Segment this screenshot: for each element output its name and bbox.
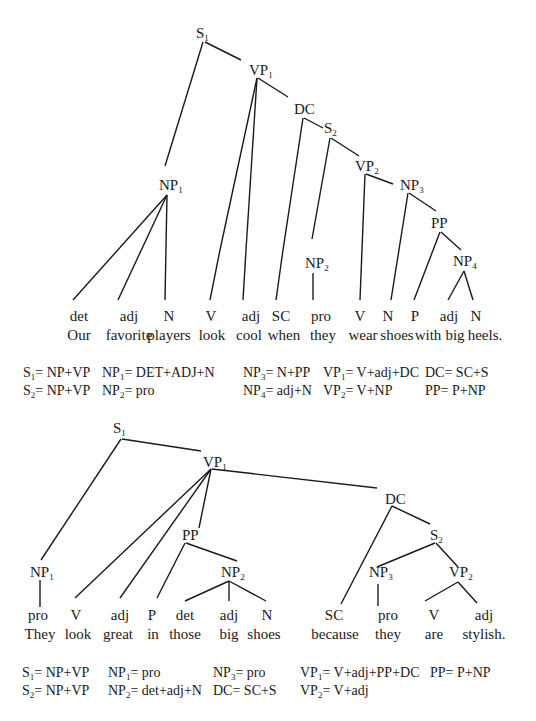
leaf-tag: N	[471, 308, 482, 324]
syntax-tree-figure: S1 VP1 DC S2 VP2 NP3 PP NP1 NP2 NP4 det …	[0, 0, 536, 721]
leaf-tag: SC	[325, 607, 343, 623]
rule: NP2= det+adj+N	[108, 683, 202, 700]
leaf-word: They	[25, 626, 56, 642]
node-dc: DC	[385, 491, 406, 507]
tree-1-branches	[73, 42, 473, 300]
leaf-word: because	[311, 626, 359, 642]
leaf-tag: adj	[242, 308, 260, 324]
node-s2: S2	[430, 527, 443, 545]
leaf-tag: adj	[440, 308, 458, 324]
node-pp: PP	[182, 527, 199, 543]
leaf-tag: pro	[311, 308, 331, 324]
node-np4: NP4	[453, 253, 477, 271]
leaf-tag: det	[176, 607, 195, 623]
tree-2-leaves: pro They V look adj great P in det those…	[25, 607, 506, 642]
node-s2: S2	[324, 120, 337, 138]
leaf-tag: adj	[111, 607, 129, 623]
leaf-tag: pro	[28, 607, 48, 623]
node-np3: NP3	[400, 177, 424, 195]
node-vp2: VP2	[449, 564, 473, 582]
rule: DC= SC+S	[425, 365, 489, 380]
leaf-word: shoes	[380, 327, 413, 343]
rule: VP1= V+adj+PP+DC	[300, 665, 419, 682]
tree-2-branches	[40, 439, 477, 607]
node-np1: NP1	[30, 564, 54, 582]
rule: NP1= pro	[108, 665, 160, 682]
rule: PP= P+NP	[430, 665, 491, 680]
node-pp: PP	[431, 215, 448, 231]
node-np2: NP2	[221, 564, 245, 582]
tree-1-nodes: S1 VP1 DC S2 VP2 NP3 PP NP1 NP2 NP4	[159, 25, 477, 273]
node-vp1: VP1	[203, 454, 227, 472]
leaf-word: Our	[67, 327, 90, 343]
leaf-tag: SC	[272, 308, 290, 324]
node-np2: NP2	[305, 255, 329, 273]
node-s1: S1	[196, 25, 209, 43]
leaf-tag: V	[355, 308, 366, 324]
tree-1: S1 VP1 DC S2 VP2 NP3 PP NP1 NP2 NP4 det …	[23, 25, 502, 400]
rule: VP2= V+adj	[300, 683, 369, 700]
leaf-word: those	[169, 626, 201, 642]
leaf-word: look	[199, 327, 226, 343]
leaf-tag: adj	[120, 308, 138, 324]
node-s1: S1	[113, 420, 126, 438]
leaf-word: wear	[348, 327, 377, 343]
leaf-tag: adj	[220, 607, 238, 623]
rule: NP3= pro	[213, 665, 265, 682]
node-vp1: VP1	[249, 62, 273, 80]
leaf-word: look	[65, 626, 92, 642]
leaf-tag: V	[71, 607, 82, 623]
leaf-tag: adj	[475, 607, 493, 623]
rule: NP1= DET+ADJ+N	[102, 365, 215, 382]
rule: S2= NP+VP	[22, 683, 90, 700]
tree-2: S1 VP1 DC S2 PP NP1 NP2 NP3 VP2 pro They…	[22, 420, 505, 700]
tree-2-nodes: S1 VP1 DC S2 PP NP1 NP2 NP3 VP2	[30, 420, 473, 582]
leaf-tag: V	[206, 308, 217, 324]
leaf-word: are	[425, 626, 444, 642]
leaf-word: with	[415, 327, 442, 343]
tree-1-rules: S1= NP+VP NP1= DET+ADJ+N NP3= N+PP VP1= …	[23, 365, 489, 400]
leaf-tag: det	[70, 308, 89, 324]
leaf-word: great	[103, 626, 134, 642]
rule: S1= NP+VP	[22, 665, 90, 682]
leaf-word: favorite	[106, 327, 153, 343]
leaf-word: when	[268, 327, 301, 343]
node-np3: NP3	[369, 564, 393, 582]
rule: NP2= pro	[102, 383, 154, 400]
leaf-word: cool	[236, 327, 262, 343]
leaf-word: big	[445, 327, 465, 343]
rule: PP= P+NP	[425, 383, 486, 398]
rule: S1= NP+VP	[23, 365, 91, 382]
leaf-tag: N	[383, 308, 394, 324]
tree-2-rules: S1= NP+VP NP1= pro NP3= pro VP1= V+adj+P…	[22, 665, 491, 700]
leaf-word: stylish.	[463, 626, 506, 642]
leaf-word: shoes	[247, 626, 280, 642]
leaf-tag: V	[429, 607, 440, 623]
rule: S2= NP+VP	[23, 383, 91, 400]
rule: NP3= N+PP	[243, 365, 311, 382]
node-vp2: VP2	[355, 158, 379, 176]
leaf-tag: N	[164, 308, 175, 324]
leaf-tag: P	[411, 308, 419, 324]
node-np1: NP1	[159, 177, 183, 195]
leaf-tag: N	[262, 607, 273, 623]
leaf-word: they	[375, 626, 401, 642]
leaf-word: players	[147, 327, 190, 343]
rule: DC= SC+S	[213, 683, 277, 698]
leaf-tag: P	[148, 607, 156, 623]
rule: VP2= V+NP	[323, 383, 393, 400]
leaf-word: heels.	[468, 327, 503, 343]
rule: NP4= adj+N	[243, 383, 312, 400]
tree-1-leaves: det Our adj favorite N players V look ad…	[67, 308, 502, 343]
leaf-word: they	[310, 327, 336, 343]
leaf-word: in	[147, 626, 159, 642]
leaf-tag: pro	[378, 607, 398, 623]
rule: VP1= V+adj+DC	[323, 365, 419, 382]
leaf-word: big	[219, 626, 239, 642]
node-dc: DC	[294, 101, 315, 117]
